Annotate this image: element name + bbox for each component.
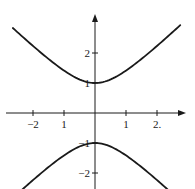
y-tick-label: 2 (85, 47, 91, 59)
y-axis-arrow-icon (92, 14, 98, 22)
x-tick-label: 2. (153, 118, 162, 130)
lower-branch-curve (21, 143, 168, 189)
x-tick-label: 1 (123, 118, 129, 130)
upper-branch-curve (13, 25, 180, 83)
hyperbola-plot: −2112. 21−1−2 (0, 0, 195, 189)
y-tick-label: −2 (78, 167, 90, 179)
x-axis-arrow-icon (178, 110, 186, 116)
x-tick-label: −2 (27, 118, 39, 130)
x-tick-label: 1 (61, 118, 67, 130)
